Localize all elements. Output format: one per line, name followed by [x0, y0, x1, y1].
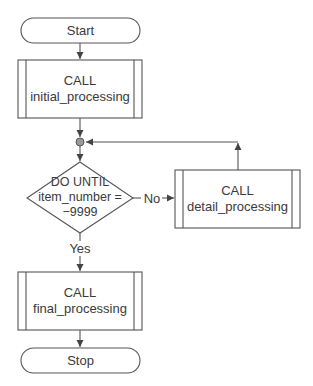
initial-call-label: CALL	[18, 73, 142, 88]
start-label: Start	[21, 23, 140, 38]
initial-name-label: initial_processing	[18, 89, 142, 104]
stop-label: Stop	[21, 353, 140, 368]
detail-name-label: detail_processing	[175, 199, 300, 214]
decision-line2: item_number =	[25, 190, 135, 205]
detail-call-label: CALL	[175, 183, 300, 198]
yes-label: Yes	[60, 241, 100, 256]
decision-line3: −9999	[30, 205, 130, 220]
junction-connector	[76, 138, 84, 146]
decision-line1: DO UNTIL	[30, 175, 130, 190]
final-name-label: final_processing	[18, 301, 142, 316]
no-label: No	[141, 191, 163, 206]
final-call-label: CALL	[18, 285, 142, 300]
